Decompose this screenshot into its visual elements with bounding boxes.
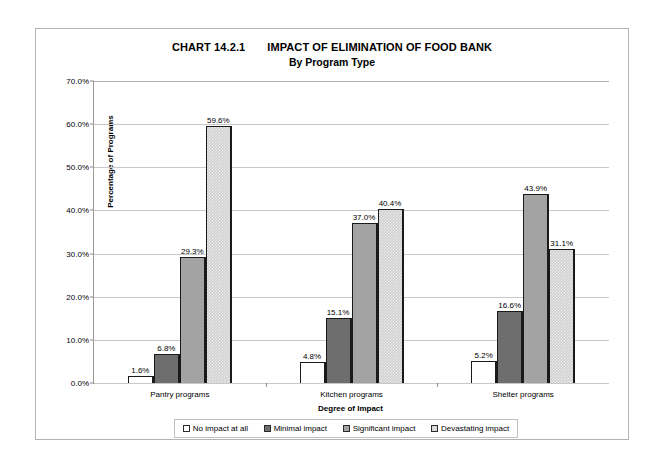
bar[interactable]: 29.3% xyxy=(180,257,206,383)
y-axis-tick-label: 30.0% xyxy=(66,249,89,258)
y-axis-tick-label: 20.0% xyxy=(66,292,89,301)
bar-group-bars: 4.8%15.1%37.0%40.4% xyxy=(286,81,416,383)
chart-legend: No impact at allMinimal impactSignifican… xyxy=(174,419,518,438)
bar-slot: 6.8% xyxy=(154,81,180,383)
plot-area: 0.0%10.0%20.0%30.0%40.0%50.0%60.0%70.0% … xyxy=(93,81,609,384)
bar[interactable]: 59.6% xyxy=(206,126,232,383)
bar-group-bars: 1.6%6.8%29.3%59.6% xyxy=(115,81,245,383)
x-axis-category-label: Shelter programs xyxy=(437,390,609,399)
legend-label: Devastating impact xyxy=(441,424,509,433)
bar[interactable]: 4.8% xyxy=(300,362,326,383)
legend-label: Minimal impact xyxy=(274,424,327,433)
bar-value-label: 5.2% xyxy=(475,351,493,360)
legend-item[interactable]: Minimal impact xyxy=(264,424,327,433)
legend-label: No impact at all xyxy=(193,424,248,433)
bar-slot: 4.8% xyxy=(300,81,326,383)
bar[interactable]: 15.1% xyxy=(326,318,352,383)
bar-value-label: 6.8% xyxy=(157,344,175,353)
bar[interactable]: 43.9% xyxy=(523,194,549,383)
bar-value-label: 31.1% xyxy=(550,239,573,248)
bar-value-label: 59.6% xyxy=(207,116,230,125)
x-axis-category-label: Pantry programs xyxy=(94,390,266,399)
x-axis-tick-mark xyxy=(266,383,267,387)
legend-swatch-icon xyxy=(183,425,190,432)
bar-slot: 1.6% xyxy=(128,81,154,383)
bar-group-bars: 5.2%16.6%43.9%31.1% xyxy=(458,81,588,383)
bar-value-label: 40.4% xyxy=(379,199,402,208)
bar-slot: 59.6% xyxy=(206,81,232,383)
bar-group: 5.2%16.6%43.9%31.1%Shelter programs xyxy=(437,81,609,383)
y-axis-tick-label: 60.0% xyxy=(66,120,89,129)
bar-slot: 43.9% xyxy=(523,81,549,383)
chart-number: CHART 14.2.1 xyxy=(172,41,245,53)
legend-swatch-icon xyxy=(431,425,438,432)
bar-value-label: 4.8% xyxy=(303,352,321,361)
bar-groups: 1.6%6.8%29.3%59.6%Pantry programs4.8%15.… xyxy=(94,81,609,383)
y-axis-tick-label: 10.0% xyxy=(66,335,89,344)
bar[interactable]: 40.4% xyxy=(378,209,404,383)
bar-value-label: 16.6% xyxy=(498,301,521,310)
bar-group: 4.8%15.1%37.0%40.4%Kitchen programs xyxy=(266,81,438,383)
bar[interactable]: 16.6% xyxy=(497,311,523,383)
chart-title-line: CHART 14.2.1IMPACT OF ELIMINATION OF FOO… xyxy=(36,41,628,53)
bar-value-label: 29.3% xyxy=(181,247,204,256)
chart-frame: CHART 14.2.1IMPACT OF ELIMINATION OF FOO… xyxy=(35,28,629,440)
bar[interactable]: 31.1% xyxy=(549,249,575,383)
bar-slot: 15.1% xyxy=(326,81,352,383)
gridline xyxy=(94,383,609,384)
bar-value-label: 15.1% xyxy=(327,308,350,317)
chart-title-block: CHART 14.2.1IMPACT OF ELIMINATION OF FOO… xyxy=(36,41,628,68)
bar[interactable]: 6.8% xyxy=(154,354,180,383)
bar-slot: 37.0% xyxy=(352,81,378,383)
bar-slot: 16.6% xyxy=(497,81,523,383)
bar-group: 1.6%6.8%29.3%59.6%Pantry programs xyxy=(94,81,266,383)
x-axis-category-label: Kitchen programs xyxy=(266,390,438,399)
y-axis-tick-label: 70.0% xyxy=(66,77,89,86)
legend-label: Significant impact xyxy=(353,424,416,433)
y-axis-tick-label: 40.0% xyxy=(66,206,89,215)
chart-subtitle: By Program Type xyxy=(36,56,628,68)
bar[interactable]: 1.6% xyxy=(128,376,154,383)
legend-item[interactable]: Significant impact xyxy=(343,424,416,433)
bar-slot: 31.1% xyxy=(549,81,575,383)
bar-slot: 5.2% xyxy=(471,81,497,383)
bar[interactable]: 37.0% xyxy=(352,223,378,383)
bar[interactable]: 5.2% xyxy=(471,361,497,383)
chart-title: IMPACT OF ELIMINATION OF FOOD BANK xyxy=(267,41,492,53)
bar-slot: 29.3% xyxy=(180,81,206,383)
bar-value-label: 43.9% xyxy=(524,184,547,193)
bar-slot: 40.4% xyxy=(378,81,404,383)
x-axis-title: Degree of Impact xyxy=(93,404,608,413)
bar-value-label: 1.6% xyxy=(131,366,149,375)
legend-item[interactable]: No impact at all xyxy=(183,424,248,433)
legend-swatch-icon xyxy=(264,425,271,432)
x-axis-tick-mark xyxy=(437,383,438,387)
legend-item[interactable]: Devastating impact xyxy=(431,424,509,433)
y-axis-tick-label: 0.0% xyxy=(71,379,89,388)
bar-value-label: 37.0% xyxy=(353,213,376,222)
legend-swatch-icon xyxy=(343,425,350,432)
y-axis-tick-label: 50.0% xyxy=(66,163,89,172)
